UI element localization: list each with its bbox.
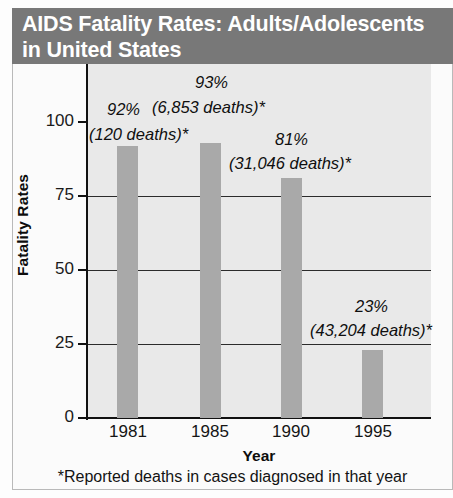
- bar-label-pct-1995: 23%: [355, 296, 388, 317]
- y-tick-label-0: 0: [30, 407, 74, 427]
- page-title: AIDS Fatality Rates: Adults/Adolescents …: [22, 11, 447, 63]
- bar-label-deaths-1990: (31,046 deaths)*: [229, 153, 351, 174]
- y-tick-label-75: 75: [30, 185, 74, 205]
- x-axis-title: Year: [87, 447, 431, 465]
- x-tick-label-1995: 1995: [333, 422, 413, 442]
- chart-footnote: *Reported deaths in cases diagnosed in t…: [14, 468, 451, 486]
- y-tick-mark-0: [78, 417, 87, 419]
- bar-1985: [200, 143, 221, 418]
- y-tick-mark-75: [78, 195, 87, 197]
- y-tick-mark-100: [78, 121, 87, 123]
- y-axis-line: [86, 64, 88, 420]
- x-tick-label-1990: 1990: [251, 422, 331, 442]
- gridline-50: [87, 270, 431, 271]
- gridline-75: [87, 196, 431, 197]
- bar-1981: [117, 146, 138, 418]
- x-tick-label-1981: 1981: [88, 422, 168, 442]
- chart-header-band: AIDS Fatality Rates: Adults/Adolescents …: [12, 8, 453, 64]
- y-tick-label-50: 50: [30, 259, 74, 279]
- bar-label-pct-1981: 92%: [107, 99, 140, 120]
- y-tick-label-100: 100: [30, 111, 74, 131]
- bar-1995: [362, 350, 383, 418]
- bar-label-deaths-1985: (6,853 deaths)*: [152, 97, 265, 118]
- y-tick-mark-50: [78, 269, 87, 271]
- bar-1990: [281, 178, 302, 418]
- bar-label-deaths-1981: (120 deaths)*: [89, 124, 188, 145]
- x-tick-label-1985: 1985: [170, 422, 250, 442]
- bar-label-pct-1990: 81%: [275, 129, 308, 150]
- chart-figure: AIDS Fatality Rates: Adults/Adolescents …: [0, 0, 453, 498]
- y-tick-mark-25: [78, 343, 87, 345]
- bar-label-deaths-1995: (43,204 deaths)*: [310, 320, 432, 341]
- bar-label-pct-1985: 93%: [195, 72, 228, 93]
- gridline-25: [87, 344, 431, 345]
- y-tick-label-25: 25: [30, 333, 74, 353]
- y-axis-title: Fatality Rates: [14, 155, 32, 295]
